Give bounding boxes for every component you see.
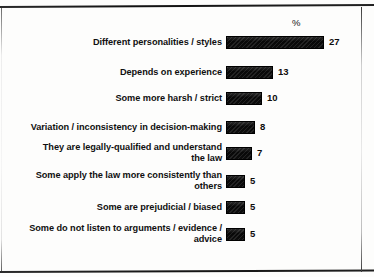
bar-category-label-line: the law xyxy=(191,153,222,163)
bar-category-label: Some are prejudicial / biased xyxy=(17,202,222,213)
bar xyxy=(226,175,245,188)
percent-axis-header: % xyxy=(292,17,301,28)
bar xyxy=(226,201,245,214)
bar-wrapper: 10 xyxy=(226,92,262,105)
bar-category-label-line: Variation / inconsistency in decision-ma… xyxy=(31,122,222,132)
bar-category-label-line: Some apply the law more consistently tha… xyxy=(36,170,222,180)
bar-category-label-line: Some are prejudicial / biased xyxy=(97,202,222,212)
bar-row: Depends on experience13 xyxy=(0,66,374,88)
bar-category-label-line: Some do not listen to arguments / eviden… xyxy=(29,223,222,233)
bar xyxy=(226,36,324,49)
bar-chart-plot-area: % Different personalities / styles27Depe… xyxy=(0,0,374,277)
bar-row: Variation / inconsistency in decision-ma… xyxy=(0,121,374,143)
bar-value-label: 5 xyxy=(250,201,255,212)
bar-value-label: 13 xyxy=(278,66,289,77)
bar-category-label: Some do not listen to arguments / eviden… xyxy=(17,223,222,246)
chart-figure: % Different personalities / styles27Depe… xyxy=(0,0,374,277)
bar xyxy=(226,92,262,105)
bar-value-label: 27 xyxy=(329,36,340,47)
bar-value-label: 8 xyxy=(260,121,265,132)
bar xyxy=(226,147,252,160)
bar-value-label: 10 xyxy=(267,92,278,103)
bar-category-label-line: others xyxy=(194,181,222,191)
bar-wrapper: 27 xyxy=(226,36,324,49)
bar-wrapper: 5 xyxy=(226,228,245,241)
bar-wrapper: 5 xyxy=(226,175,245,188)
bar-row: They are legally-qualified and understan… xyxy=(0,147,374,169)
bar-wrapper: 8 xyxy=(226,121,255,134)
bar-category-label-line: Some more harsh / strict xyxy=(115,93,222,103)
bar-category-label-line: advice xyxy=(194,234,222,244)
bar-category-label: They are legally-qualified and understan… xyxy=(17,142,222,165)
bar-row: Some apply the law more consistently tha… xyxy=(0,175,374,197)
bar-category-label: Different personalities / styles xyxy=(17,37,222,48)
bar-category-label: Variation / inconsistency in decision-ma… xyxy=(17,122,222,133)
bar-row: Some are prejudicial / biased5 xyxy=(0,201,374,223)
bar-category-label-line: Depends on experience xyxy=(120,67,222,77)
bar xyxy=(226,121,255,134)
bar xyxy=(226,66,273,79)
bar-category-label-line: Different personalities / styles xyxy=(93,37,222,47)
bar-wrapper: 7 xyxy=(226,147,252,160)
bar-row: Some do not listen to arguments / eviden… xyxy=(0,228,374,250)
bar-value-label: 5 xyxy=(250,228,255,239)
bar-wrapper: 5 xyxy=(226,201,245,214)
bar-wrapper: 13 xyxy=(226,66,273,79)
bar-category-label: Some more harsh / strict xyxy=(17,93,222,104)
bar-category-label-line: They are legally-qualified and understan… xyxy=(43,142,222,152)
bar-row: Some more harsh / strict10 xyxy=(0,92,374,114)
bar-category-label: Some apply the law more consistently tha… xyxy=(17,170,222,193)
bar-value-label: 7 xyxy=(257,147,262,158)
bar-category-label: Depends on experience xyxy=(17,67,222,78)
bar-value-label: 5 xyxy=(250,175,255,186)
bar-row: Different personalities / styles27 xyxy=(0,36,374,58)
bar xyxy=(226,228,245,241)
